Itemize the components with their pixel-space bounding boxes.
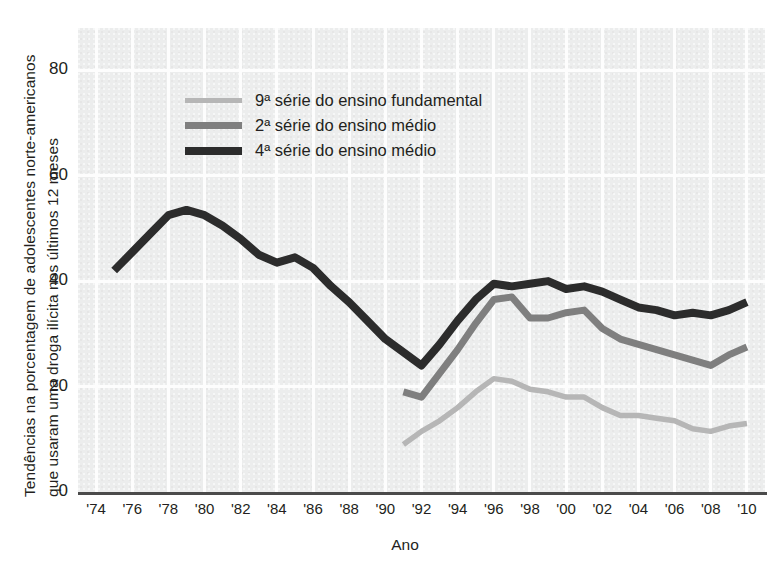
y-tick-label: 60 [24, 165, 68, 185]
x-tick-label: '08 [701, 500, 721, 517]
x-tick-label: '80 [195, 500, 215, 517]
x-tick-label: '00 [556, 500, 576, 517]
x-axis-title: Ano [0, 536, 782, 554]
y-axis-title-line-2: que usaram uma droga ilícita nos últimos… [44, 138, 62, 497]
chart-figure: Tendências na porcentagem de adolescente… [0, 0, 782, 571]
x-tick-label: '92 [412, 500, 432, 517]
x-tick-label: '02 [593, 500, 613, 517]
legend-label-4a-serie: 4ª série do ensino médio [255, 141, 436, 160]
x-tick-label: '04 [629, 500, 649, 517]
y-tick-label: 40 [24, 270, 68, 290]
series-line-1 [403, 379, 746, 445]
x-axis-title-text: Ano [391, 536, 419, 554]
x-tick-label: '06 [665, 500, 685, 517]
x-tick-label: '82 [231, 500, 251, 517]
legend-swatch-2a-serie [185, 122, 242, 129]
x-tick-label: '94 [448, 500, 468, 517]
x-tick-label: '90 [376, 500, 396, 517]
legend: 9ª série do ensino fundamental 2ª série … [185, 88, 585, 163]
legend-item-9a-serie: 9ª série do ensino fundamental [185, 88, 585, 113]
legend-swatch-9a-serie [185, 98, 242, 103]
x-tick-label: '76 [122, 500, 142, 517]
x-tick-label: '86 [303, 500, 323, 517]
x-tick-label: '96 [484, 500, 504, 517]
y-tick-label: 20 [24, 376, 68, 396]
legend-item-4a-serie: 4ª série do ensino médio [185, 138, 585, 163]
legend-item-2a-serie: 2ª série do ensino médio [185, 113, 585, 138]
x-tick-label: '98 [520, 500, 540, 517]
series-line-3 [114, 210, 747, 366]
x-axis-line [78, 492, 767, 495]
y-tick-label: 0 [24, 481, 68, 501]
x-tick-label: '74 [86, 500, 106, 517]
x-tick-label: '78 [159, 500, 179, 517]
legend-label-2a-serie: 2ª série do ensino médio [255, 116, 436, 135]
legend-swatch-4a-serie [185, 147, 242, 155]
x-tick-label: '88 [339, 500, 359, 517]
legend-label-9a-serie: 9ª série do ensino fundamental [255, 91, 482, 110]
x-tick-label: '10 [737, 500, 757, 517]
x-tick-label: '84 [267, 500, 287, 517]
y-tick-label: 80 [24, 59, 68, 79]
